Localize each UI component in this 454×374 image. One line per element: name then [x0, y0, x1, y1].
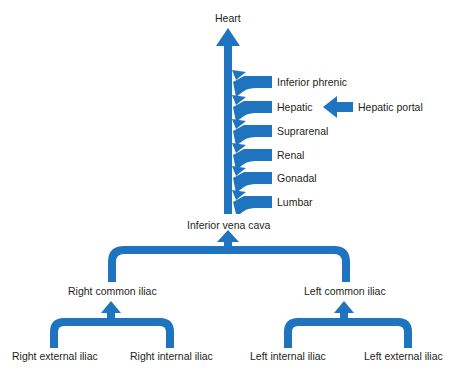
suprarenal-arrow [232, 119, 272, 146]
renal-arrow [232, 143, 272, 170]
inferior-phrenic-arrow [232, 70, 272, 97]
right-iliac-bracket-arrow [54, 301, 170, 348]
label-hepatic: Hepatic [277, 101, 313, 113]
left-iliac-bracket-arrow [288, 301, 408, 348]
label-right-common-iliac: Right common iliac [68, 285, 157, 297]
label-hepatic-portal: Hepatic portal [358, 101, 423, 113]
label-suprarenal: Suprarenal [277, 125, 328, 137]
label-gonadal: Gonadal [277, 172, 317, 184]
lumbar-arrow [232, 190, 272, 214]
label-heart: Heart [215, 12, 241, 24]
label-left-common-iliac: Left common iliac [304, 285, 386, 297]
gonadal-arrow [232, 166, 272, 193]
label-right-external-iliac: Right external iliac [12, 350, 98, 362]
label-left-internal-iliac: Left internal iliac [250, 350, 326, 362]
label-right-internal-iliac: Right internal iliac [130, 350, 213, 362]
vein-flow-diagram [0, 0, 454, 374]
label-lumbar: Lumbar [277, 196, 313, 208]
hepatic-arrow [232, 95, 272, 122]
label-inferior-vena-cava: Inferior vena cava [187, 219, 270, 231]
hepatic-portal-arrow [323, 96, 353, 118]
label-renal: Renal [277, 149, 304, 161]
label-left-external-iliac: Left external iliac [364, 350, 443, 362]
common-iliac-bracket-arrow [112, 230, 346, 282]
tributary-arrows [232, 70, 272, 214]
label-inferior-phrenic: Inferior phrenic [277, 76, 347, 88]
